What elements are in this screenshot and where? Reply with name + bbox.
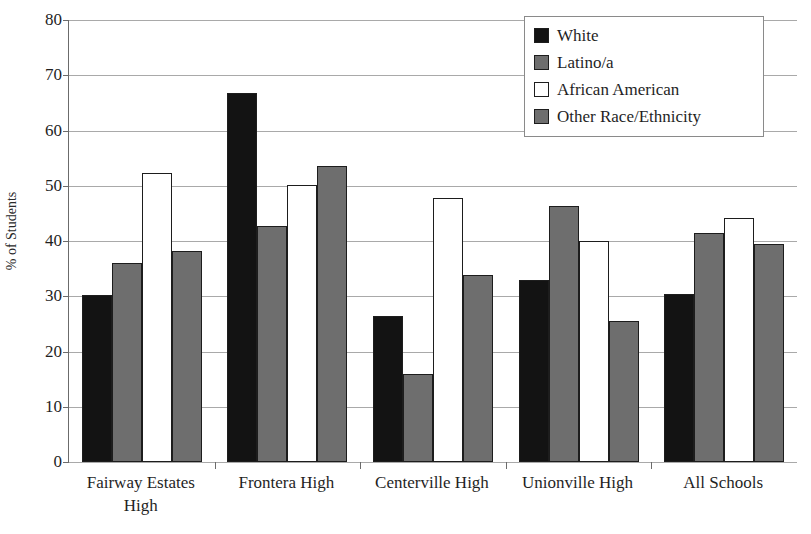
bar [112, 263, 142, 462]
legend-item: African American [534, 76, 754, 103]
legend-item: White [534, 22, 754, 49]
bar [724, 218, 754, 462]
bar [142, 173, 172, 462]
legend-item: Other Race/Ethnicity [534, 103, 754, 130]
x-tick-mark [215, 462, 216, 469]
bar [694, 233, 724, 462]
bar [463, 275, 493, 462]
legend-swatch-icon [534, 109, 549, 124]
legend-swatch-icon [534, 82, 549, 97]
bar [754, 244, 784, 462]
bar [403, 374, 433, 462]
x-axis-category-label: Frontera High [214, 472, 360, 518]
legend-label: Latino/a [557, 53, 614, 73]
y-tick-label: 60 [45, 121, 62, 141]
x-tick-mark [506, 462, 507, 469]
x-tick-mark [651, 462, 652, 469]
bar [373, 316, 403, 462]
x-axis-labels: Fairway Estates HighFrontera HighCenterv… [68, 472, 796, 518]
bar [519, 280, 549, 462]
y-tick-label: 50 [45, 176, 62, 196]
bar [82, 295, 112, 462]
legend-swatch-icon [534, 55, 549, 70]
y-tick-label: 20 [45, 342, 62, 362]
x-axis-category-label: Fairway Estates High [68, 472, 214, 518]
legend-label: African American [557, 80, 679, 100]
x-tick-mark [360, 462, 361, 469]
bar [433, 198, 463, 462]
bar [227, 93, 257, 462]
bar [317, 166, 347, 462]
chart-title-cropped [0, 0, 811, 6]
bar [257, 226, 287, 462]
bar [579, 241, 609, 462]
legend-label: White [557, 26, 599, 46]
bar-group [215, 20, 361, 462]
bar [172, 251, 202, 462]
y-axis-title: % of Students [2, 0, 22, 462]
y-tick-label: 30 [45, 286, 62, 306]
bar [664, 294, 694, 462]
y-tick-label: 10 [45, 397, 62, 417]
bar-chart: % of Students 01020304050607080 Fairway … [0, 0, 811, 534]
x-axis-category-label: All Schools [650, 472, 796, 518]
legend: WhiteLatino/aAfrican AmericanOther Race/… [524, 16, 764, 137]
bar-group [69, 20, 215, 462]
y-tick-label: 80 [45, 10, 62, 30]
bar [609, 321, 639, 462]
gridline [69, 462, 797, 463]
y-tick-label: 70 [45, 65, 62, 85]
y-tick-mark [63, 462, 69, 463]
y-tick-label: 0 [54, 452, 63, 472]
x-axis-category-label: Centerville High [359, 472, 505, 518]
y-tick-label: 40 [45, 231, 62, 251]
bar [549, 206, 579, 462]
legend-item: Latino/a [534, 49, 754, 76]
bar-group [360, 20, 506, 462]
y-axis-title-text: % of Students [4, 192, 20, 271]
legend-swatch-icon [534, 28, 549, 43]
x-axis-category-label: Unionville High [505, 472, 651, 518]
legend-label: Other Race/Ethnicity [557, 107, 701, 127]
bar [287, 185, 317, 462]
